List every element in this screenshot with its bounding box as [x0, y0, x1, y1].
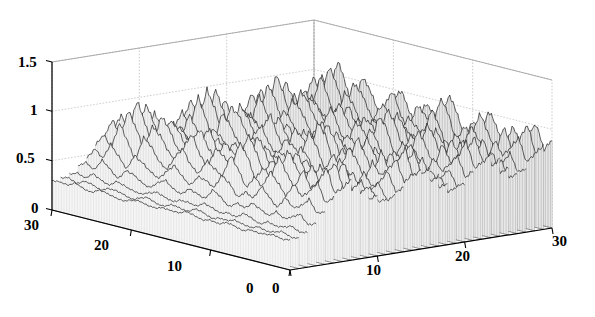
x-axis-tick-label: 20: [94, 238, 109, 253]
plot-canvas: [0, 0, 595, 317]
figure-3d-waterfall-plot: 1.510.5030201000102030: [0, 0, 595, 317]
x-axis-tick-label: 30: [24, 218, 39, 233]
waterfall-surface: [52, 62, 552, 270]
y-axis-tick-label: 10: [366, 263, 381, 278]
x-axis-tick-label: 10: [167, 259, 182, 274]
z-axis-tick-label: 0.5: [16, 151, 35, 166]
z-axis-tick-label: 1: [30, 103, 38, 118]
z-axis-tick-label: 1.5: [18, 55, 37, 70]
y-axis-tick-label: 0: [272, 281, 280, 296]
y-axis-tick-label: 20: [455, 249, 470, 264]
z-axis-tick-label: 0: [31, 201, 39, 216]
y-axis-tick-label: 30: [552, 234, 567, 249]
x-axis-tick-label: 0: [246, 281, 254, 296]
